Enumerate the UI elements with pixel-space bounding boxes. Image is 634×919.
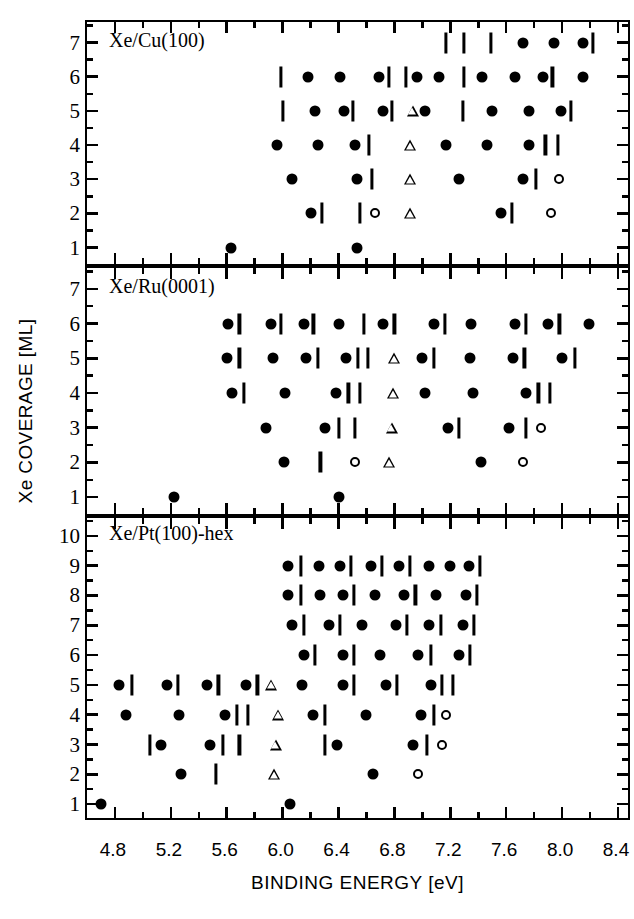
data-point-filled-circle [425, 679, 436, 690]
y-tick [87, 594, 98, 597]
x-tick-top [449, 268, 452, 279]
data-point-error-bar [358, 203, 361, 224]
y-tick-minor [87, 669, 93, 672]
data-point-error-bar [352, 674, 355, 695]
data-point-error-bar [452, 674, 455, 695]
data-point-error-bar [217, 674, 220, 695]
y-tick-label: 3 [46, 732, 80, 757]
data-point-filled-circle [357, 620, 368, 631]
y-tick [617, 426, 628, 429]
x-tick-minor-top [477, 518, 480, 524]
data-point-filled-circle [420, 105, 431, 116]
data-point-error-bar [130, 674, 133, 695]
data-point-error-bar [368, 135, 371, 156]
y-tick [617, 288, 628, 291]
data-point-filled-circle [272, 140, 283, 151]
x-tick [449, 253, 452, 264]
y-tick-minor [87, 728, 93, 731]
data-point-error-bar [489, 32, 492, 53]
data-point-filled-circle [95, 799, 106, 810]
y-tick-minor [87, 340, 93, 343]
y-tick-minor [87, 305, 93, 308]
x-tick-minor [142, 812, 145, 818]
y-tick [87, 178, 98, 181]
data-point-error-bar [302, 615, 305, 636]
x-tick-minor-top [114, 22, 117, 28]
y-tick-minor [622, 229, 628, 232]
data-point-error-bar [221, 734, 224, 755]
data-point-error-bar [558, 313, 561, 334]
y-tick [617, 322, 628, 325]
x-tick-minor-top [142, 518, 145, 524]
data-point-open-triangle [404, 174, 416, 185]
data-point-error-bar [548, 383, 551, 404]
x-tick-top [449, 22, 452, 33]
data-point-open-triangle [268, 769, 280, 780]
x-tick-label: 8.4 [603, 839, 629, 861]
panel-pt: Xe/Pt(100)-hex12345678910 [85, 516, 630, 820]
data-point-error-bar [405, 615, 408, 636]
data-point-filled-circle [287, 174, 298, 185]
x-tick-minor-top [365, 22, 368, 28]
data-point-filled-circle [323, 620, 334, 631]
data-point-error-bar [414, 585, 417, 606]
y-tick-minor [87, 195, 93, 198]
data-point-filled-circle [481, 140, 492, 151]
data-point-filled-circle [537, 71, 548, 82]
data-point-filled-circle [315, 590, 326, 601]
data-point-filled-circle [337, 650, 348, 661]
data-point-open-circle [518, 457, 528, 467]
data-point-filled-circle [487, 105, 498, 116]
y-tick [87, 246, 98, 249]
data-point-error-bar [238, 313, 241, 334]
data-point-error-bar [432, 704, 435, 725]
data-point-filled-circle [368, 769, 379, 780]
data-point-error-bar [235, 704, 238, 725]
y-tick-minor [87, 639, 93, 642]
y-tick [617, 594, 628, 597]
data-point-error-bar [408, 555, 411, 576]
data-point-filled-circle [411, 71, 422, 82]
x-tick-minor [142, 508, 145, 514]
data-point-filled-circle [337, 679, 348, 690]
y-tick-label: 4 [46, 133, 80, 158]
y-tick-minor [622, 409, 628, 412]
x-tick-minor [114, 812, 117, 818]
data-point-filled-circle [509, 318, 520, 329]
y-tick-label: 9 [46, 553, 80, 578]
x-tick-top [337, 268, 340, 279]
x-tick-minor [309, 812, 312, 818]
y-tick-minor [622, 669, 628, 672]
y-tick [87, 322, 98, 325]
x-tick [393, 503, 396, 514]
panel-cu: Xe/Cu(100)1234567 [85, 20, 630, 266]
y-tick [87, 110, 98, 113]
data-point-filled-circle [333, 492, 344, 503]
data-point-error-bar [468, 645, 471, 666]
x-tick-minor [309, 258, 312, 264]
x-tick [170, 807, 173, 818]
data-point-filled-circle [504, 422, 515, 433]
y-tick-label: 7 [46, 613, 80, 638]
y-tick [87, 144, 98, 147]
x-tick [617, 807, 620, 818]
y-tick [617, 803, 628, 806]
x-tick-minor [589, 258, 592, 264]
data-point-error-bar [148, 734, 151, 755]
data-point-filled-circle [393, 560, 404, 571]
data-point-error-bar [404, 66, 407, 87]
data-point-error-bar [352, 585, 355, 606]
data-point-open-triangle [386, 422, 398, 433]
data-point-error-bar [319, 452, 322, 473]
data-point-filled-circle [260, 422, 271, 433]
y-tick-minor [622, 195, 628, 198]
x-tick-label: 6.4 [323, 839, 349, 861]
y-tick-minor [87, 788, 93, 791]
y-tick-minor [622, 479, 628, 482]
data-point-filled-circle [466, 318, 477, 329]
x-tick-minor-top [114, 268, 117, 274]
x-tick-minor-top [253, 268, 256, 274]
data-point-error-bar [457, 417, 460, 438]
x-tick-minor-top [198, 268, 201, 274]
x-tick-minor-top [198, 518, 201, 524]
